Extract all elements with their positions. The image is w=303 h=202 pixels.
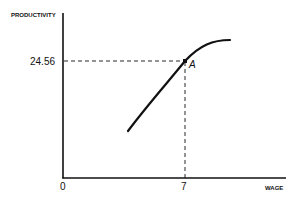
point-a-label: A — [188, 59, 196, 70]
x-axis-label: WAGE — [265, 185, 283, 191]
point-a-marker — [183, 59, 187, 63]
productivity-curve — [128, 40, 230, 131]
y-tick-label: 24.56 — [30, 56, 55, 67]
y-axis-label: PRODUCTIVITY — [11, 12, 56, 18]
chart-canvas: PRODUCTIVITY 24.56 0 7 WAGE A — [0, 0, 303, 202]
origin-label: 0 — [60, 181, 66, 192]
x-tick-label: 7 — [181, 181, 187, 192]
